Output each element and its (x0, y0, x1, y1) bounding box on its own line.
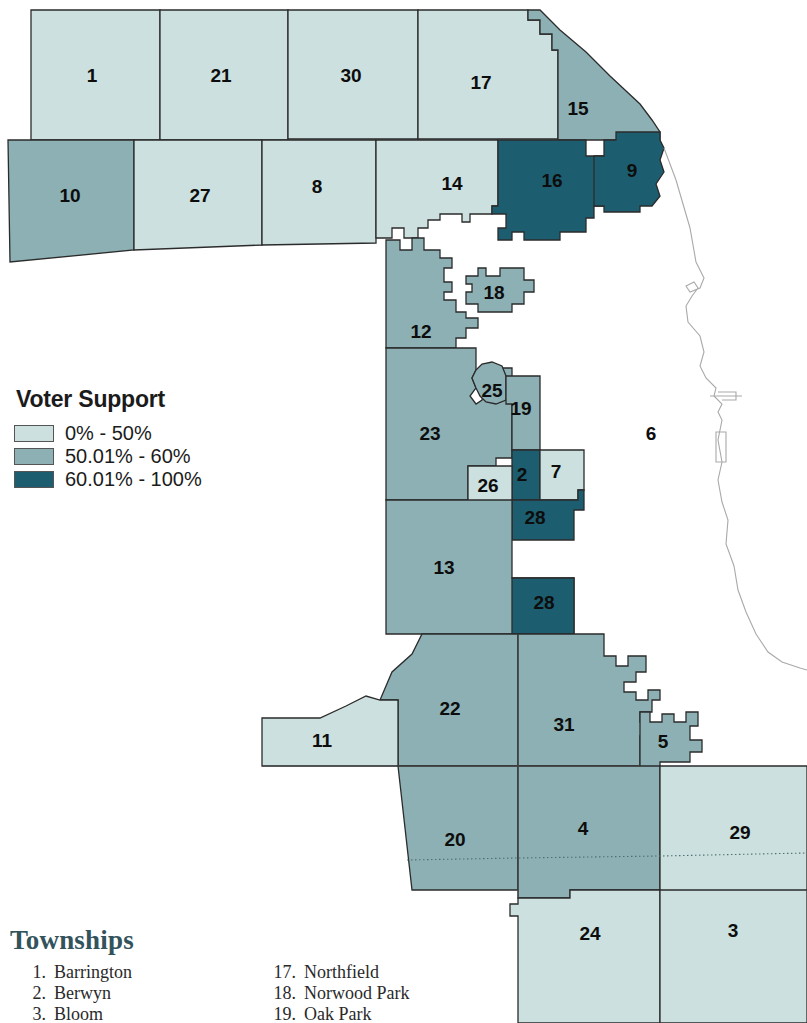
legend-swatch-mid (14, 448, 54, 465)
choropleth-map-figure: 1213017151027814169181225192362726281328… (0, 0, 807, 1023)
township-label-3: 3 (728, 920, 739, 941)
legend-swatch-high (14, 471, 54, 488)
townships-columns: 1.Barrington2.Berwyn3.Bloom 17.Northfiel… (8, 962, 508, 1023)
township-region-5 (640, 712, 702, 772)
township-label-8: 8 (312, 176, 323, 197)
township-region-4 (518, 766, 660, 898)
township-label-4: 4 (578, 818, 589, 839)
township-list-number: 1. (8, 962, 54, 983)
township-label-14: 14 (441, 173, 463, 194)
township-list-name: Barrington (54, 962, 258, 983)
township-list-number: 17. (258, 962, 304, 983)
township-label-6: 6 (646, 423, 657, 444)
township-label-25: 25 (481, 380, 503, 401)
township-region-24 (510, 890, 660, 1023)
township-region-14 (376, 140, 498, 238)
legend-row-mid: 50.01% - 60% (14, 445, 264, 467)
legend-row-low: 0% - 50% (14, 422, 264, 444)
legend-swatch-low (14, 425, 54, 442)
township-list-entry: 18.Norwood Park (258, 983, 508, 1004)
township-label-22: 22 (439, 698, 460, 719)
township-label-23: 23 (419, 423, 440, 444)
legend-label-mid: 50.01% - 60% (65, 445, 191, 468)
township-list-name: Bloom (54, 1004, 258, 1023)
township-list-entry: 17.Northfield (258, 962, 508, 983)
township-list-entry: 2.Berwyn (8, 983, 258, 1004)
township-list-name: Northfield (304, 962, 508, 983)
townships-column-right: 17.Northfield18.Norwood Park19.Oak Park (258, 962, 508, 1023)
township-label-20: 20 (444, 829, 465, 850)
township-region-12 (386, 238, 478, 348)
township-list-name: Norwood Park (304, 983, 508, 1004)
legend-row-high: 60.01% - 100% (14, 468, 264, 490)
township-label-27: 27 (189, 185, 210, 206)
township-label-11: 11 (312, 730, 333, 751)
township-label-7: 7 (551, 461, 562, 482)
township-label-15: 15 (567, 98, 589, 119)
township-label-19: 19 (510, 398, 531, 419)
township-list-number: 18. (258, 983, 304, 1004)
legend-label-high: 60.01% - 100% (65, 468, 202, 491)
township-label-29: 29 (729, 822, 750, 843)
township-label-2: 2 (517, 464, 528, 485)
townships-list-block: Townships 1.Barrington2.Berwyn3.Bloom 17… (8, 925, 508, 1023)
township-label-16: 16 (541, 170, 562, 191)
township-list-number: 19. (258, 1004, 304, 1023)
townships-column-left: 1.Barrington2.Berwyn3.Bloom (8, 962, 258, 1023)
township-label-1: 1 (87, 65, 98, 86)
township-region-31 (518, 634, 660, 766)
township-label-10: 10 (59, 185, 80, 206)
township-list-number: 2. (8, 983, 54, 1004)
township-label-31: 31 (553, 714, 575, 735)
township-list-entry: 19.Oak Park (258, 1004, 508, 1023)
township-map-svg: 1213017151027814169181225192362726281328… (0, 0, 807, 1023)
township-region-3 (660, 890, 807, 1023)
legend-label-low: 0% - 50% (65, 422, 152, 445)
township-label-28: 28 (524, 507, 545, 528)
township-region-20 (398, 766, 518, 890)
township-list-entry: 3.Bloom (8, 1004, 258, 1023)
township-list-name: Berwyn (54, 983, 258, 1004)
lake-michigan-shoreline (664, 148, 807, 670)
legend-title: Voter Support (16, 386, 264, 413)
township-label-26: 26 (477, 475, 498, 496)
township-list-name: Oak Park (304, 1004, 508, 1023)
township-label-5: 5 (658, 731, 669, 752)
township-list-entry: 1.Barrington (8, 962, 258, 983)
township-label-12: 12 (410, 321, 431, 342)
legend: Voter Support 0% - 50% 50.01% - 60% 60.0… (14, 386, 264, 491)
township-label-28: 28 (533, 592, 554, 613)
township-label-9: 9 (627, 160, 638, 181)
township-label-21: 21 (210, 65, 232, 86)
township-label-24: 24 (579, 923, 601, 944)
townships-heading: Townships (10, 925, 508, 956)
township-label-18: 18 (483, 282, 504, 303)
township-list-number: 3. (8, 1004, 54, 1023)
township-label-17: 17 (470, 72, 491, 93)
township-label-13: 13 (433, 557, 454, 578)
township-label-30: 30 (340, 65, 361, 86)
